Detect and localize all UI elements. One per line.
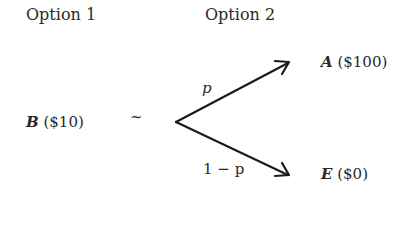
branch-upper-arrow: [176, 63, 288, 122]
probability-lower: 1 − p: [203, 160, 244, 178]
outcome-a: A ($100): [321, 53, 387, 71]
outcome-a-value: ($100): [337, 53, 387, 71]
probability-upper: p: [202, 79, 212, 97]
outcome-e: E ($0): [321, 165, 368, 183]
outcome-a-symbol: A: [321, 53, 333, 71]
outcome-e-symbol: E: [321, 165, 332, 183]
outcome-e-value: ($0): [337, 165, 368, 183]
